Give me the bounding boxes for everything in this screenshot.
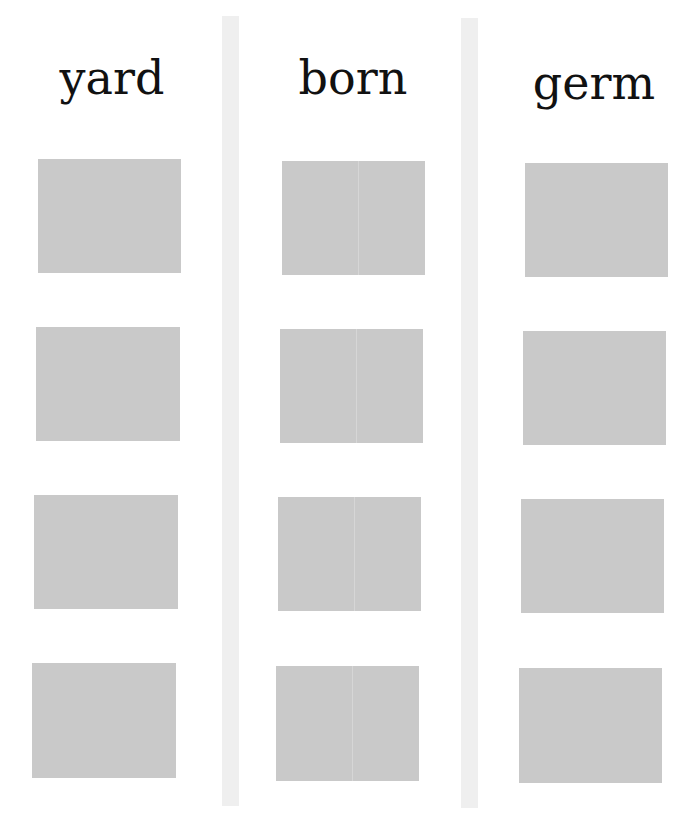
sort-box: [38, 159, 181, 273]
sort-box: [278, 497, 421, 611]
sort-box: [282, 161, 425, 275]
column-heading: yard: [12, 55, 212, 101]
sort-box: [525, 163, 668, 277]
sort-box: [34, 495, 178, 609]
sort-box: [280, 329, 423, 443]
column-heading: born: [253, 55, 453, 101]
sort-box: [32, 663, 176, 778]
sort-box: [519, 668, 662, 783]
column-divider-1: [222, 16, 239, 806]
column-divider-2: [461, 18, 478, 808]
sort-box: [523, 331, 666, 445]
column-heading: germ: [494, 60, 694, 106]
sort-box: [521, 499, 664, 613]
sort-box: [276, 666, 419, 781]
sort-box: [36, 327, 180, 441]
